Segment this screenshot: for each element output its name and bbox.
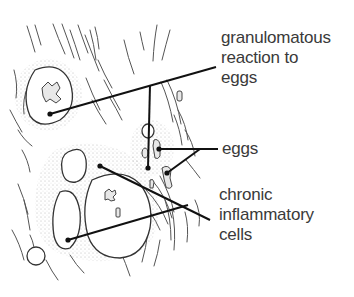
label-line: eggs (221, 68, 331, 88)
label-line: eggs (222, 139, 258, 159)
label-chronic-inflammatory-cells: chronic inflammatory cells (219, 185, 314, 245)
label-line: chronic (219, 185, 314, 205)
label-granulomatous-reaction: granulomatous reaction to eggs (221, 28, 331, 88)
label-line: granulomatous (221, 28, 331, 48)
label-line: reaction to (221, 48, 331, 68)
label-line: cells (219, 225, 314, 245)
label-line: inflammatory (219, 205, 314, 225)
label-eggs: eggs (222, 139, 258, 159)
vessel (27, 247, 45, 265)
